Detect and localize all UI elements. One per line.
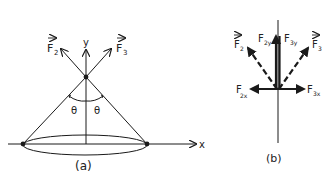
f2-vector	[61, 49, 86, 77]
f3-label: F 3	[116, 38, 127, 57]
f3y-label: F 3y	[284, 33, 298, 47]
svg-text:F: F	[47, 42, 53, 55]
caption-a: (a)	[75, 159, 92, 173]
svg-text:3: 3	[123, 49, 127, 57]
x-axis-label: x	[199, 139, 205, 150]
f2y-label: F 2y	[258, 33, 272, 47]
diagram-b: F 2 F 2y F 3y F 3 F 2x F 3x (b)	[234, 20, 322, 165]
theta-left-label: θ	[71, 105, 77, 116]
y-axis-label: y	[83, 37, 89, 48]
svg-text:3y: 3y	[290, 39, 298, 47]
diagram-a: x y θ θ F 2 F 3	[8, 37, 205, 173]
svg-text:3x: 3x	[313, 90, 321, 97]
svg-text:F: F	[116, 42, 122, 55]
left-point	[21, 142, 26, 147]
svg-text:2x: 2x	[240, 92, 248, 99]
ring-ellipse	[23, 135, 147, 155]
f3-label-b: F 3	[312, 35, 322, 52]
caption-b: (b)	[266, 152, 282, 165]
apex-point	[84, 75, 89, 80]
f3-dashed-vector	[279, 48, 308, 89]
svg-text:2: 2	[240, 45, 244, 52]
f2-label: F 2	[47, 38, 58, 57]
right-point	[145, 142, 150, 147]
theta-right-arc	[86, 96, 103, 101]
theta-right-label: θ	[94, 105, 100, 116]
svg-text:2: 2	[54, 49, 58, 57]
svg-text:2y: 2y	[264, 39, 272, 47]
f3-vector	[86, 49, 111, 77]
theta-left-arc	[69, 96, 86, 101]
force-diagram: x y θ θ F 2 F 3	[0, 0, 330, 182]
f2-label-b: F 2	[234, 35, 244, 52]
f3x-label: F 3x	[307, 84, 321, 97]
svg-text:3: 3	[318, 45, 322, 52]
f2x-label: F 2x	[236, 84, 248, 99]
f2-dashed-vector	[248, 48, 277, 89]
